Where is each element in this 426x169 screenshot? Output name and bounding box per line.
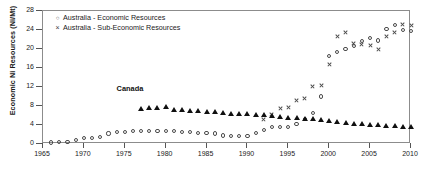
y-tick-label: 20 (14, 44, 34, 51)
data-point-circle-open (319, 94, 323, 98)
x-tick (287, 143, 288, 148)
data-point-triangle-filled (236, 111, 242, 116)
data-point-circle-open (131, 129, 135, 133)
data-point-circle-open (180, 130, 184, 134)
data-point-triangle-filled (220, 110, 226, 115)
data-point-cross (319, 83, 324, 88)
chart-legend: ○ Australia - Economic Resources × Austr… (53, 13, 180, 33)
data-point-circle-open (123, 130, 127, 134)
data-point-triangle-filled (359, 121, 365, 126)
data-point-circle-open (311, 111, 315, 115)
x-tick-label: 1970 (66, 150, 100, 157)
data-point-triangle-filled (334, 119, 340, 124)
legend-label: Australia - Sub-Economic Resources (63, 23, 180, 33)
data-point-cross (351, 41, 356, 46)
data-point-triangle-filled (187, 108, 193, 113)
y-tick-label: 16 (14, 63, 34, 70)
data-point-triangle-filled (269, 113, 275, 118)
x-tick-label: 2005 (352, 150, 386, 157)
data-point-circle-open (98, 135, 102, 139)
data-point-circle-open (221, 133, 225, 137)
data-point-cross (400, 22, 405, 27)
data-point-circle-open (204, 131, 208, 135)
data-point-triangle-filled (179, 107, 185, 112)
data-point-circle-open (213, 131, 217, 135)
series-annotation-canada: Canada (117, 84, 144, 93)
data-point-cross (261, 117, 266, 122)
data-point-circle-open (115, 130, 119, 134)
data-point-circle-open (164, 129, 168, 133)
data-point-triangle-filled (228, 111, 234, 116)
data-point-cross (302, 96, 307, 101)
data-point-circle-open (90, 136, 94, 140)
y-tick-label: 28 (14, 6, 34, 13)
data-point-circle-open (139, 129, 143, 133)
data-point-cross (409, 23, 414, 28)
data-point-circle-open (229, 134, 233, 138)
x-tick (165, 143, 166, 148)
data-point-cross (310, 84, 315, 89)
data-point-circle-open (270, 125, 274, 129)
x-tick-label: 2010 (393, 150, 426, 157)
legend-label: Australia - Economic Resources (63, 13, 165, 23)
data-point-circle-open (155, 129, 159, 133)
data-point-triangle-filled (163, 104, 169, 109)
data-point-triangle-filled (204, 109, 210, 114)
y-tick-label: 24 (14, 25, 34, 32)
data-point-circle-open (245, 134, 249, 138)
data-point-circle-open (74, 138, 78, 142)
data-point-cross (376, 47, 381, 52)
data-point-circle-open (393, 23, 397, 27)
data-point-circle-open (335, 50, 339, 54)
x-tick (369, 143, 370, 148)
data-point-triangle-filled (318, 117, 324, 122)
data-point-cross (359, 42, 364, 47)
data-point-circle-open (409, 29, 413, 33)
data-point-triangle-filled (146, 105, 152, 110)
x-tick-label: 1985 (189, 150, 223, 157)
data-point-cross (368, 43, 373, 48)
data-point-cross (392, 30, 397, 35)
data-point-circle-open (384, 27, 388, 31)
data-point-triangle-filled (244, 111, 250, 116)
x-tick (410, 143, 411, 148)
y-tick-label: 0 (14, 139, 34, 146)
data-point-cross (294, 98, 299, 103)
y-tick-label: 4 (14, 120, 34, 127)
x-tick-label: 1965 (25, 150, 59, 157)
data-point-triangle-filled (277, 114, 283, 119)
data-point-circle-open (82, 136, 86, 140)
x-tick-label: 1995 (270, 150, 304, 157)
data-point-circle-open (237, 134, 241, 138)
data-point-cross (286, 105, 291, 110)
data-point-circle-open (294, 122, 298, 126)
data-point-triangle-filled (294, 115, 300, 120)
data-point-triangle-filled (154, 105, 160, 110)
data-point-circle-open (106, 131, 110, 135)
cross-marker-icon: × (53, 23, 62, 33)
x-tick-label: 1990 (229, 150, 263, 157)
data-point-cross (343, 30, 348, 35)
data-point-triangle-filled (261, 112, 267, 117)
data-point-cross (278, 106, 283, 111)
data-point-triangle-filled (212, 109, 218, 114)
data-point-circle-open (343, 47, 347, 51)
data-point-cross (335, 34, 340, 39)
y-tick-label: 12 (14, 82, 34, 89)
data-point-triangle-filled (310, 116, 316, 121)
data-point-triangle-filled (326, 118, 332, 123)
data-point-circle-open (376, 38, 380, 42)
data-point-circle-open (196, 131, 200, 135)
data-point-circle-open (254, 131, 258, 135)
data-point-triangle-filled (285, 115, 291, 120)
legend-item: × Australia - Sub-Economic Resources (53, 23, 180, 33)
x-tick-label: 1975 (107, 150, 141, 157)
y-tick-label: 8 (14, 101, 34, 108)
data-point-cross (327, 62, 332, 67)
x-tick (42, 143, 43, 148)
data-point-triangle-filled (138, 106, 144, 111)
chart-container: Economic Ni Resources (Ni/Mt) 0481216202… (0, 0, 426, 169)
data-point-triangle-filled (302, 116, 308, 121)
data-point-circle-open (65, 140, 69, 144)
data-point-triangle-filled (171, 107, 177, 112)
